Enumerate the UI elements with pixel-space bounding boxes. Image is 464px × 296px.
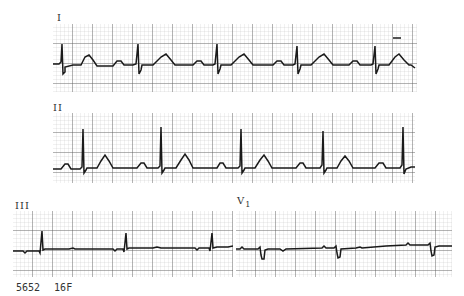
ecg-strip-lead-III: [13, 211, 233, 277]
patient-info: 16F: [54, 282, 72, 293]
lead-label-III: III: [15, 200, 30, 211]
lead-label-V1-main: V: [237, 195, 245, 206]
ecg-strip-lead-V1: [236, 211, 452, 277]
lead-label-II: II: [53, 102, 63, 113]
ecg-strip-lead-II: [53, 113, 415, 183]
ecg-strip-lead-I: [53, 24, 417, 92]
lead-label-V1: V1: [237, 195, 251, 209]
lead-label-I: I: [57, 12, 62, 23]
lead-label-V1-subscript: 1: [245, 200, 251, 209]
record-footer: 565216F: [16, 282, 86, 293]
record-id: 5652: [16, 282, 40, 293]
